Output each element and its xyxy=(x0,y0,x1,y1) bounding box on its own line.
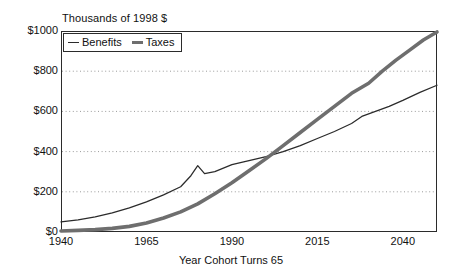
x-tick-label: 2040 xyxy=(391,236,415,247)
chart-figure: Thousands of 1998 $ $0$200$400$600$800$1… xyxy=(0,0,462,277)
legend-label-taxes: Taxes xyxy=(146,36,175,48)
x-axis-title: Year Cohort Turns 65 xyxy=(0,254,462,266)
x-tick-label: 2015 xyxy=(305,236,329,247)
legend-label-benefits: Benefits xyxy=(82,36,122,48)
legend-item-taxes: Taxes xyxy=(132,36,175,48)
x-tick-label: 1940 xyxy=(49,236,73,247)
legend-item-benefits: Benefits xyxy=(68,36,122,48)
x-tick-label: 1990 xyxy=(220,236,244,247)
line-swatch-icon xyxy=(132,41,143,44)
x-tick-label: 1965 xyxy=(134,236,158,247)
chart-legend: Benefits Taxes xyxy=(63,33,182,52)
line-swatch-icon xyxy=(68,42,79,43)
